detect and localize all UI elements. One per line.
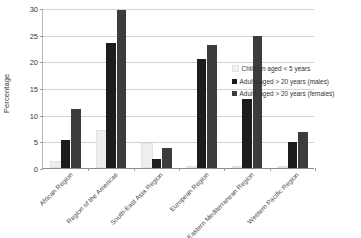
y-axis-tick-labels: 051015202530 (16, 9, 38, 169)
x-tick-label: South-East Asia Region (109, 171, 164, 226)
bar (298, 132, 308, 168)
legend-swatch-icon (232, 91, 237, 96)
legend-label: Children aged < 5 years (242, 65, 311, 72)
chart-legend: Children aged < 5 yearsAdults aged > 20 … (232, 64, 358, 102)
y-tick-label: 5 (16, 138, 38, 147)
x-tick-label: European Region (168, 171, 210, 213)
bar-group (96, 9, 127, 168)
bar (288, 142, 298, 168)
y-tick-label: 20 (16, 58, 38, 67)
legend-item: Adults aged > 20 years (females) (232, 89, 358, 98)
bar (106, 43, 116, 168)
chart-figure: Percentage 051015202530 African RegionRe… (0, 0, 361, 238)
x-tick-label: African Region (38, 171, 74, 207)
legend-label: Adults aged > 20 years (males) (240, 78, 330, 85)
x-axis-category-labels: African RegionRegion of the AmericasSout… (42, 171, 314, 237)
bar (242, 99, 252, 168)
bar (71, 109, 81, 168)
bar (117, 10, 127, 168)
x-tick-mark (315, 168, 316, 171)
legend-swatch-icon (232, 79, 237, 84)
y-tick-mark (40, 169, 43, 170)
bar (162, 148, 172, 168)
x-tick-label: Western Pacific Region (246, 171, 300, 225)
bar-group (186, 9, 217, 168)
bar (197, 59, 207, 168)
legend-swatch-icon (232, 65, 239, 72)
y-tick-label: 30 (16, 5, 38, 14)
legend-label: Adults aged > 20 years (females) (240, 90, 335, 97)
bar (253, 36, 263, 168)
x-tick-label: Region of the Americas (65, 171, 119, 225)
bar (152, 159, 162, 168)
legend-item: Adults aged > 20 years (males) (232, 77, 358, 86)
bar-group (50, 9, 81, 168)
y-tick-label: 0 (16, 165, 38, 174)
y-axis-label: Percentage (2, 58, 16, 128)
bar (207, 45, 217, 168)
y-tick-label: 25 (16, 31, 38, 40)
legend-item: Children aged < 5 years (232, 64, 358, 73)
bar-group (141, 9, 172, 168)
y-tick-label: 10 (16, 111, 38, 120)
bar (61, 140, 71, 168)
y-tick-label: 15 (16, 85, 38, 94)
